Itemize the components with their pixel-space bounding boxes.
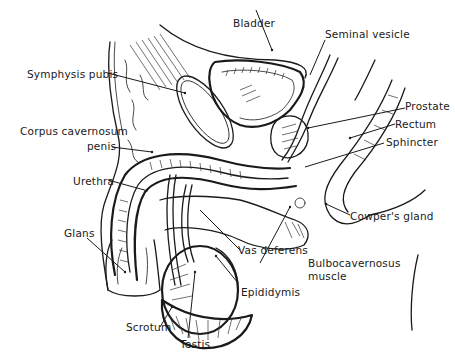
label-rectum: Rectum xyxy=(395,118,436,130)
label-scrotum: Scrotum xyxy=(126,321,171,333)
anatomy-diagram: Bladder Seminal vesicle Symphysis pubis … xyxy=(0,0,455,363)
label-epididymis: Epididymis xyxy=(241,286,300,298)
label-bulbocavernosus: Bulbocavernosus xyxy=(308,257,401,269)
label-testis: Testis xyxy=(180,338,210,350)
label-cowpers-gland: Cowper's gland xyxy=(350,210,434,222)
rectum-shape xyxy=(325,80,392,224)
testis-shape xyxy=(162,246,238,334)
cowpers-gland-shape xyxy=(295,198,305,208)
label-corpus-cavernosum-penis: penis xyxy=(87,140,116,152)
label-seminal-vesicle: Seminal vesicle xyxy=(325,28,410,40)
label-bladder: Bladder xyxy=(233,17,275,29)
urethra-shape xyxy=(135,178,296,280)
label-bulbocavernosus-muscle: muscle xyxy=(308,270,347,282)
label-vas-deferens: Vas deferens xyxy=(238,244,308,256)
label-symphysis-pubis: Symphysis pubis xyxy=(27,68,118,80)
label-prostate: Prostate xyxy=(405,100,450,112)
label-sphincter: Sphincter xyxy=(386,136,438,148)
anatomy-illustration xyxy=(0,0,455,363)
label-corpus-cavernosum: Corpus cavernosum xyxy=(20,125,128,137)
label-glans: Glans xyxy=(64,227,95,239)
symphysis-pubis-shape xyxy=(166,67,244,156)
label-urethra: Urethra xyxy=(73,175,114,187)
